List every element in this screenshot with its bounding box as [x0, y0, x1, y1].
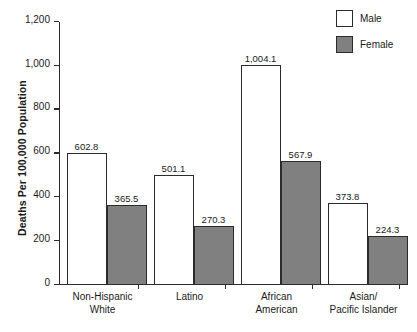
y-axis-tick-label: 200 — [10, 233, 50, 244]
bar-male: 501.1 — [154, 175, 194, 285]
legend-label-male: Male — [360, 13, 382, 24]
bar-value-label: 567.9 — [289, 149, 313, 160]
category-label-line: Pacific Islander — [320, 303, 407, 316]
category-label-line: Latino — [146, 290, 233, 303]
legend-label-female: Female — [360, 39, 393, 50]
bar-female: 270.3 — [194, 226, 234, 285]
bar-value-label: 270.3 — [202, 214, 226, 225]
bar-value-label: 373.8 — [336, 191, 360, 202]
y-axis-tick: 1,000 — [54, 65, 59, 66]
y-axis-tick-label: 0 — [10, 277, 50, 288]
y-axis-tick-label: 600 — [10, 145, 50, 156]
x-axis-category-label: AfricanAmerican — [233, 290, 320, 316]
y-axis-tick: 200 — [54, 240, 59, 241]
x-axis-category-label: Latino — [146, 290, 233, 303]
bar-value-label: 501.1 — [162, 163, 186, 174]
category-label-line: American — [233, 303, 320, 316]
y-axis-tick: 400 — [54, 196, 59, 197]
bar-female: 567.9 — [281, 161, 321, 285]
x-axis-category-label: Non-HispanicWhite — [59, 290, 146, 316]
x-axis-minor-tick — [312, 285, 313, 289]
gray-square-swatch-icon — [336, 36, 353, 53]
y-axis-tick: 600 — [54, 152, 59, 153]
x-axis-minor-tick — [399, 285, 400, 289]
category-label-line: Asian/ — [320, 290, 407, 303]
y-axis-tick-label: 800 — [10, 101, 50, 112]
category-label-line: Non-Hispanic — [59, 290, 146, 303]
x-axis-category-label: Asian/Pacific Islander — [320, 290, 407, 316]
bar-chart: Deaths Per 100,000 Population 0200400600… — [0, 0, 417, 332]
y-axis-tick-label: 1,000 — [10, 58, 50, 69]
legend-item-female: Female — [336, 36, 393, 53]
bar-female: 224.3 — [368, 236, 408, 285]
y-axis-tick: 0 — [54, 284, 59, 285]
bar-male: 373.8 — [328, 203, 368, 285]
bar-value-label: 224.3 — [376, 224, 400, 235]
bar-female: 365.5 — [107, 205, 147, 285]
category-label-line: White — [59, 303, 146, 316]
bar-value-label: 602.8 — [75, 141, 99, 152]
legend: Male Female — [336, 10, 393, 62]
x-axis-minor-tick — [138, 285, 139, 289]
x-axis-minor-tick — [225, 285, 226, 289]
bar-male: 1,004.1 — [241, 65, 281, 285]
y-axis-tick: 800 — [54, 108, 59, 109]
bar-value-label: 365.5 — [115, 193, 139, 204]
bar-value-label: 1,004.1 — [245, 53, 277, 64]
white-square-swatch-icon — [336, 10, 353, 27]
category-label-line: African — [233, 290, 320, 303]
y-axis-line — [59, 22, 60, 285]
bar-male: 602.8 — [67, 153, 107, 285]
y-axis-tick-label: 1,200 — [10, 14, 50, 25]
y-axis-tick-label: 400 — [10, 189, 50, 200]
y-axis-tick: 1,200 — [54, 21, 59, 22]
legend-item-male: Male — [336, 10, 393, 27]
